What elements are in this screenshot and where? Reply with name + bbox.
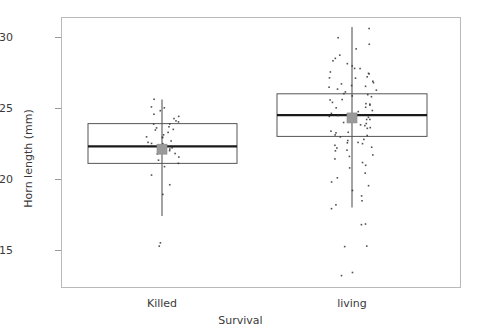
y-tick-mark — [55, 108, 61, 109]
x-tick-label-killed: Killed — [147, 297, 177, 310]
y-tick-label: 30 — [0, 31, 13, 44]
chart-root: 15202530 Horn length (mm) Killedliving S… — [0, 0, 481, 330]
y-tick-mark — [55, 37, 61, 38]
y-tick-mark — [55, 179, 61, 180]
plot-frame — [61, 17, 461, 288]
x-tick-label-living: living — [337, 297, 367, 310]
y-tick-mark — [55, 250, 61, 251]
y-tick-label: 25 — [0, 102, 13, 115]
x-axis-label: Survival — [0, 314, 481, 327]
y-tick-label: 15 — [0, 244, 13, 257]
y-axis-label: Horn length (mm) — [22, 79, 35, 239]
y-tick-label: 20 — [0, 173, 13, 186]
